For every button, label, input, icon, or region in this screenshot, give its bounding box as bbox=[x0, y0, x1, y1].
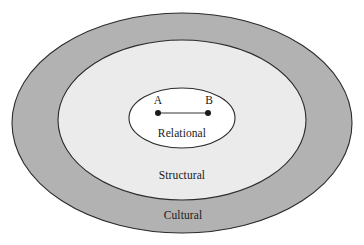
node-b-dot bbox=[205, 110, 211, 116]
diagram-canvas: A B Relational Structural Cultural bbox=[0, 0, 364, 245]
node-a-label: A bbox=[154, 94, 163, 106]
cultural-label: Cultural bbox=[164, 209, 203, 221]
relational-ellipse bbox=[129, 88, 235, 148]
node-b-label: B bbox=[205, 94, 213, 106]
node-a-dot bbox=[155, 110, 161, 116]
concentric-ellipse-diagram: A B Relational Structural Cultural bbox=[0, 0, 364, 245]
structural-label: Structural bbox=[159, 169, 205, 181]
relational-label: Relational bbox=[158, 127, 206, 139]
